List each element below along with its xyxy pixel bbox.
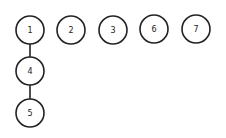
- node-7: 7: [182, 15, 210, 43]
- node-6: 6: [140, 15, 168, 43]
- node-4: 4: [16, 57, 44, 85]
- tree-diagram: 1 2 3 6 7 4 5: [0, 0, 226, 138]
- node-2: 2: [57, 16, 85, 44]
- node-label: 4: [27, 67, 32, 76]
- node-1: 1: [16, 16, 44, 44]
- node-3: 3: [99, 16, 127, 44]
- node-label: 7: [193, 25, 198, 34]
- node-label: 6: [151, 25, 156, 34]
- node-label: 5: [27, 109, 32, 118]
- nodes: 1 2 3 6 7 4 5: [16, 15, 210, 127]
- node-label: 1: [27, 26, 32, 35]
- node-5: 5: [16, 99, 44, 127]
- node-label: 3: [110, 26, 115, 35]
- node-label: 2: [68, 26, 73, 35]
